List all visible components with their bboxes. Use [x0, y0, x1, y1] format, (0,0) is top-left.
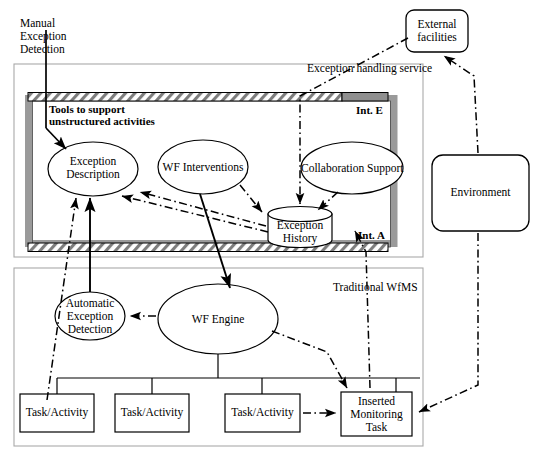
interface-e-hatched-bar [28, 93, 388, 102]
manual-exception-detection-label: Manual Exception Detection [20, 17, 67, 56]
int-e-label: Int. E [356, 104, 383, 116]
inserted-monitoring-task-label: Inserted Monitoring Task [341, 395, 412, 434]
edge-exception-history-to-exception-description [140, 192, 266, 226]
edge-environment-to-inserted-monitoring-task [419, 233, 478, 412]
external-facilities-label: External facilities [406, 18, 468, 44]
wf-engine-label: WF Engine [178, 313, 258, 326]
edge-environment-to-external-facilities [444, 56, 478, 153]
edge-wf-interventions-to-exception-history [240, 185, 262, 212]
exception-history-label: Exception History [268, 219, 332, 245]
tools-to-support-label: Tools to support unstructured activities [49, 103, 155, 128]
int-a-label: Int. A [358, 229, 385, 241]
edge-inserted-monitoring-task-to-exception-history [355, 231, 370, 388]
diagram-canvas: Manual Exception Detection Exception han… [0, 0, 535, 460]
exception-description-label: Exception Description [48, 155, 138, 181]
task-activity-3-label: Task/Activity [225, 406, 300, 419]
traditional-wfms-label: Traditional WfMS [333, 281, 418, 294]
edge-collaboration-support-to-exception-history [318, 192, 338, 210]
automatic-exception-detection-label: Automatic Exception Detection [55, 297, 125, 336]
exception-handling-service-label: Exception handling service [307, 62, 432, 75]
environment-label: Environment [432, 186, 529, 199]
wf-interventions-label: WF Interventions [158, 161, 248, 174]
edge-wf-engine-to-inserted-monitoring-task [272, 331, 347, 388]
wf-engine-task-tree [57, 354, 420, 394]
collaboration-support-label: Collaboration Support [301, 162, 403, 175]
edge-exception-description-inbound-b [122, 196, 268, 232]
task-activity-1-label: Task/Activity [20, 406, 94, 419]
task-activity-2-label: Task/Activity [115, 406, 189, 419]
interface-a-hatched-bar [28, 243, 388, 252]
